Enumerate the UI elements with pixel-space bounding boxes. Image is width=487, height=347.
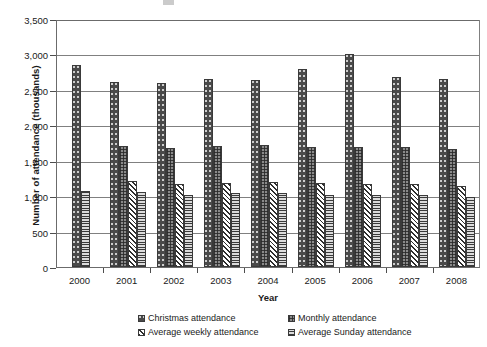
bar-group [340, 20, 387, 267]
y-tick-label: 0 [0, 263, 48, 274]
legend-item: Average Sunday attendance [288, 328, 411, 337]
x-tick-label: 2000 [69, 275, 90, 286]
legend-label: Average weekly attendance [148, 328, 258, 337]
x-tick-mark [433, 268, 434, 273]
bar [298, 69, 307, 267]
bar [401, 147, 410, 267]
bar [110, 82, 119, 267]
bar [184, 195, 193, 267]
y-tick-label: 2,500 [0, 85, 48, 96]
bar [260, 145, 269, 267]
bar [251, 80, 260, 267]
x-tick-mark [197, 268, 198, 273]
bar-group [245, 20, 292, 267]
x-tick-label: 2004 [257, 275, 278, 286]
bar [137, 192, 146, 267]
legend-swatch-icon [288, 315, 295, 322]
bar-group [151, 20, 198, 267]
bar-group [198, 20, 245, 267]
legend-swatch-icon [138, 315, 145, 322]
bar [204, 79, 213, 267]
bar [213, 146, 222, 267]
x-axis-title: Year [56, 292, 480, 303]
y-tick-label: 3,500 [0, 15, 48, 26]
bar [175, 184, 184, 267]
x-tick-label: 2001 [116, 275, 137, 286]
legend-item: Christmas attendance [138, 314, 236, 323]
legend-item: Monthly attendance [288, 314, 377, 323]
x-tick-label: 2005 [305, 275, 326, 286]
bar [222, 183, 231, 267]
bar [325, 195, 334, 267]
x-tick-label: 2008 [446, 275, 467, 286]
x-tick-label: 2007 [399, 275, 420, 286]
bar-chart: Number of attendance (thousands) 05001,0… [0, 0, 487, 347]
bar-group [57, 20, 104, 267]
bar [231, 193, 240, 267]
bar [419, 195, 428, 267]
bar-group [434, 20, 481, 267]
bar [354, 147, 363, 267]
x-tick-mark [244, 268, 245, 273]
bar [466, 197, 475, 267]
bar [448, 149, 457, 267]
bar [128, 181, 137, 267]
bar [345, 54, 354, 267]
legend-label: Monthly attendance [298, 314, 377, 323]
bar [269, 182, 278, 267]
bar [363, 184, 372, 267]
x-tick-mark [339, 268, 340, 273]
x-tick-mark [292, 268, 293, 273]
chart-legend: Christmas attendanceMonthly attendanceAv… [56, 312, 480, 344]
bar [81, 191, 90, 267]
y-tick-label: 1,500 [0, 156, 48, 167]
y-tick-label: 3,000 [0, 50, 48, 61]
legend-swatch-icon [288, 329, 295, 336]
x-tick-mark [103, 268, 104, 273]
bar-group [293, 20, 340, 267]
bar-group [104, 20, 151, 267]
x-tick-mark [386, 268, 387, 273]
bar-group [387, 20, 434, 267]
bar [307, 147, 316, 267]
x-tick-label: 2006 [352, 275, 373, 286]
bar [457, 186, 466, 267]
x-tick-label: 2003 [210, 275, 231, 286]
x-tick-mark [150, 268, 151, 273]
bar [439, 79, 448, 267]
bar [119, 146, 128, 267]
legend-item: Average weekly attendance [138, 328, 258, 337]
x-tick-label: 2002 [163, 275, 184, 286]
bar [410, 184, 419, 267]
y-tick-label: 500 [0, 227, 48, 238]
top-clipped-artifact [163, 0, 174, 5]
bar [392, 77, 401, 267]
bar [316, 183, 325, 267]
x-axis-ticks: 200020012002200320042005200620072008 [56, 268, 480, 292]
legend-label: Christmas attendance [148, 314, 236, 323]
bar [166, 148, 175, 267]
plot-area [56, 20, 480, 268]
y-tick-label: 1,000 [0, 192, 48, 203]
legend-swatch-icon [138, 329, 145, 336]
y-tick-label: 2,000 [0, 121, 48, 132]
legend-label: Average Sunday attendance [298, 328, 411, 337]
bar [372, 195, 381, 267]
bar [278, 193, 287, 267]
bar [157, 83, 166, 267]
bar [72, 65, 81, 267]
